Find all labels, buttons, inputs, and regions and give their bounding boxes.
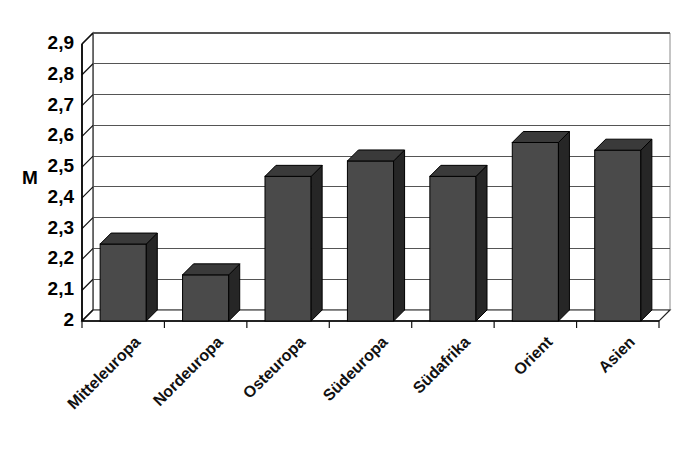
bar-front-face [430, 176, 476, 321]
x-axis-category-label: Asien [595, 333, 638, 376]
bar [595, 139, 652, 321]
x-axis-category-label: Südafrika [410, 333, 474, 397]
bar-side-face [641, 139, 652, 321]
y-axis-tick-label: 2,5 [48, 155, 75, 176]
bar-front-face [100, 244, 146, 321]
bar [347, 150, 404, 321]
y-axis-tick-label: 2,4 [48, 186, 75, 207]
bar-side-face [311, 165, 322, 321]
y-axis-tick-label: 2,9 [48, 32, 74, 53]
bar-front-face [347, 161, 393, 321]
chart-canvas: 22,12,22,32,42,52,62,72,82,9 M Mitteleur… [0, 0, 693, 454]
y-axis-tick-label: 2,7 [48, 94, 74, 115]
bar-side-face [558, 131, 569, 321]
bar-front-face [265, 176, 311, 321]
x-axis-category-label: Nordeuropa [150, 333, 226, 409]
bar-front-face [183, 275, 229, 321]
bar [265, 165, 322, 321]
bar-side-face [476, 165, 487, 321]
bar [512, 131, 569, 321]
x-axis-category-label: Orient [510, 333, 556, 379]
y-axis-tick-labels: 22,12,22,32,42,52,62,72,82,9 [48, 32, 75, 330]
bar [430, 165, 487, 321]
x-axis-ticks [82, 321, 659, 328]
y-axis-title: M [22, 167, 38, 188]
x-axis-category-labels: MitteleuropaNordeuropaOsteuropaSüdeuropa… [64, 333, 638, 413]
y-axis-tick-label: 2 [63, 309, 74, 330]
bar-side-face [146, 233, 157, 321]
y-axis-tick-label: 2,3 [48, 217, 74, 238]
bar [183, 264, 240, 321]
bar-front-face [512, 142, 558, 321]
x-axis-category-label: Mitteleuropa [64, 333, 143, 412]
x-axis-category-label: Osteuropa [240, 333, 309, 402]
bar [100, 233, 157, 321]
y-axis-tick-label: 2,6 [48, 124, 74, 145]
bar-front-face [595, 150, 641, 321]
plot-left-wall [82, 33, 93, 321]
x-axis-category-label: Südeuropa [320, 333, 391, 404]
bar-side-face [394, 150, 405, 321]
bar-chart: 22,12,22,32,42,52,62,72,82,9 M Mitteleur… [0, 0, 693, 454]
y-axis-tick-label: 2,2 [48, 247, 74, 268]
y-axis-tick-label: 2,1 [48, 278, 75, 299]
y-axis-tick-label: 2,8 [48, 63, 74, 84]
